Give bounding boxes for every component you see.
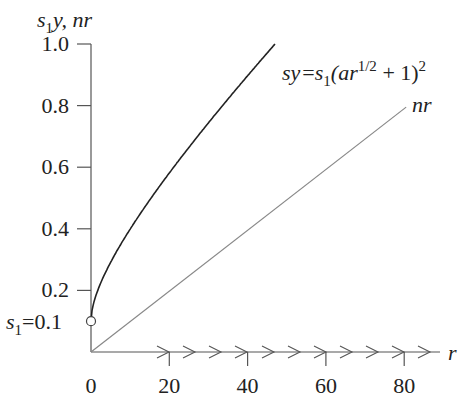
curve-label: sy=s1(ar1/2 + 1)2 [282, 58, 426, 89]
y-tick-label: 0.4 [42, 216, 70, 241]
x-axis-label: r [448, 340, 457, 365]
y-tick-label: 0.8 [42, 93, 70, 118]
y-tick-label: 0.2 [42, 277, 70, 302]
sy-curve [91, 44, 275, 321]
x-tick-label: 40 [237, 373, 259, 398]
y-ticks: 0.20.40.60.81.0 [42, 31, 92, 302]
x-ticks: 020406080 [86, 352, 416, 398]
x-tick-label: 80 [393, 373, 415, 398]
y-tick-label: 0.6 [42, 154, 70, 179]
nr-line [91, 107, 406, 352]
s1-marker-circle [87, 317, 96, 326]
x-tick-label: 60 [315, 373, 337, 398]
nr-label: nr [412, 92, 432, 117]
s1-annotation: s1=0.1 [6, 309, 62, 338]
chart: 0.20.40.60.81.0 020406080 s1y, nr r sy=s… [0, 0, 465, 409]
x-tick-label: 0 [86, 373, 97, 398]
x-tick-label: 20 [158, 373, 180, 398]
y-axis-label: s1y, nr [37, 7, 93, 36]
